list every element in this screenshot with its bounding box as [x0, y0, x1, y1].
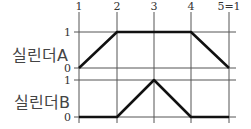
cylinder-b-label: 실린더B: [14, 89, 70, 113]
level-gridlines: [74, 32, 236, 117]
cylinder-a-label: 실린더A: [12, 42, 68, 66]
step-label: 3: [151, 0, 158, 13]
cylinder-b-level-1: 1: [64, 74, 71, 87]
step-label: 4: [188, 0, 195, 13]
step-label: 2: [114, 0, 121, 13]
step-label: 1: [76, 0, 83, 13]
cylinder-a-level-1: 1: [64, 26, 71, 39]
step-labels: 1 2 3 4 5=1: [76, 0, 241, 13]
step-label: 5=1: [217, 0, 240, 13]
